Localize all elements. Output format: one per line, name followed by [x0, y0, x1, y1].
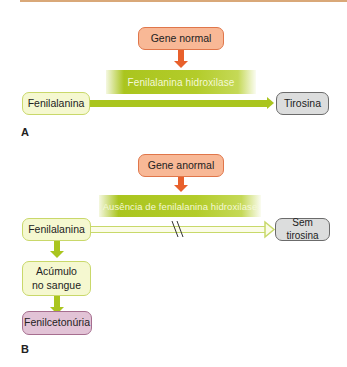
- blocked-arrowhead-icon: [265, 221, 275, 238]
- gene-abnormal-label: Gene anormal: [148, 159, 215, 172]
- substrate-box: Fenilalanina: [22, 218, 91, 241]
- top-rule: [20, 0, 347, 2]
- accumulation-box: Acúmulo no sangue: [22, 261, 91, 296]
- gene-normal-box: Gene normal: [138, 27, 224, 50]
- enzyme-label: Fenilalanina hidroxilase: [128, 77, 235, 88]
- gene-abnormal-box: Gene anormal: [138, 154, 224, 177]
- orange-arrow-icon: [178, 50, 184, 62]
- down-arrow-icon: [54, 241, 60, 252]
- conversion-arrow-icon: [90, 100, 268, 107]
- no-product-box: Sem tirosina: [275, 218, 330, 241]
- enzyme-band: Fenilalanina hidroxilase: [106, 70, 256, 94]
- product-box: Tirosina: [276, 92, 329, 115]
- panel-a-label: A: [21, 126, 29, 138]
- enzyme-absent-label: Ausência de fenilalanina hidroxilase: [103, 201, 258, 212]
- gene-normal-label: Gene normal: [151, 32, 212, 45]
- product-label: Tirosina: [284, 97, 321, 110]
- accumulation-label: Acúmulo no sangue: [29, 265, 84, 291]
- substrate-label: Fenilalanina: [28, 223, 85, 236]
- enzyme-absent-band: Ausência de fenilalanina hidroxilase: [99, 195, 261, 217]
- break-mark-icon: [170, 220, 186, 238]
- disease-label: Fenilcetonúria: [24, 316, 90, 329]
- no-product-label: Sem tirosina: [276, 217, 329, 242]
- down-arrow-icon: [54, 296, 60, 308]
- orange-arrow-icon: [178, 177, 184, 186]
- substrate-label: Fenilalanina: [28, 97, 85, 110]
- panel-b-label: B: [21, 343, 29, 355]
- disease-box: Fenilcetonúria: [22, 311, 92, 335]
- substrate-box: Fenilalanina: [22, 92, 90, 115]
